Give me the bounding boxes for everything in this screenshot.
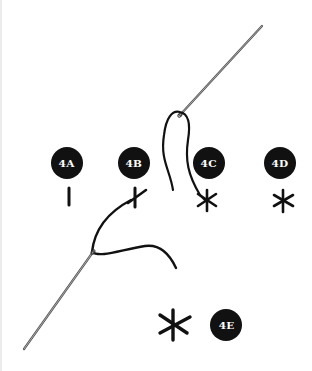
- stitch-4e-icon: [160, 310, 190, 340]
- step-badge-4b: 4B: [118, 147, 150, 179]
- stitch-4c-icon: [198, 190, 216, 211]
- step-badge-4d: 4D: [264, 147, 296, 179]
- diagram-drawing: [0, 0, 312, 371]
- step-badge-4a: 4A: [51, 147, 83, 179]
- step-label: 4A: [59, 158, 75, 169]
- needle-lower-icon: [24, 249, 96, 349]
- step-label: 4C: [201, 158, 217, 169]
- stitch-4b-icon: [128, 188, 146, 207]
- step-badge-4c: 4C: [193, 147, 225, 179]
- needle-upper-icon: [177, 26, 262, 118]
- stitch-4d-icon: [274, 190, 293, 212]
- step-label: 4B: [126, 158, 143, 169]
- thread-lower-icon: [92, 200, 176, 268]
- step-label: 4E: [218, 320, 234, 331]
- stitch-diagram: 4A 4B 4C 4D 4E: [0, 0, 312, 371]
- step-label: 4D: [272, 158, 289, 169]
- step-badge-4e: 4E: [210, 309, 242, 341]
